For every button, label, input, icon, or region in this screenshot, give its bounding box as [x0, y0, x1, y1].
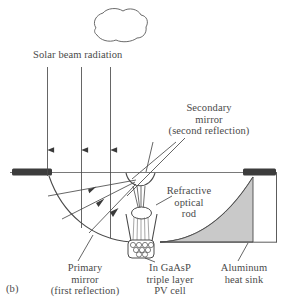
refractive-optical-rod-lens — [132, 207, 152, 219]
leader-secondary-mirror — [146, 142, 153, 172]
left-rim-tab — [12, 169, 52, 176]
secondary-mirror-ray-line-2 — [132, 142, 176, 179]
label-refractive-optical-rod: Refractive optical rod — [158, 185, 220, 220]
label-aluminum-heat-sink: Aluminum heat sink — [205, 262, 283, 285]
cpv-dish-diagram — [0, 0, 285, 300]
reflected-ray-group — [48, 180, 136, 233]
figure-caption: (b) — [6, 283, 19, 295]
reflected-ray-3 — [89, 184, 136, 233]
label-secondary-mirror: Secondary mirror (second reflection) — [150, 102, 268, 137]
figure-container: Solar beam radiation Secondary mirror (s… — [0, 0, 285, 300]
reflected-ray-1-arrow — [88, 186, 97, 193]
cloud-icon — [94, 9, 147, 42]
reflected-ray-2 — [62, 182, 135, 219]
incident-ray-group — [48, 67, 111, 238]
rod-striations — [133, 217, 149, 241]
secondary-mirror-arc — [126, 173, 155, 186]
label-primary-mirror: Primary mirror (first reflection) — [32, 262, 138, 297]
leader-primary-mirror — [78, 235, 93, 261]
leader-aluminum-heat-sink — [238, 243, 248, 261]
label-solar-beam-radiation: Solar beam radiation — [33, 49, 122, 61]
right-rim-tab — [243, 169, 276, 176]
pv-cell-module — [128, 240, 154, 258]
label-pv-cell: In GaAsP triple layer PV cell — [132, 262, 208, 297]
